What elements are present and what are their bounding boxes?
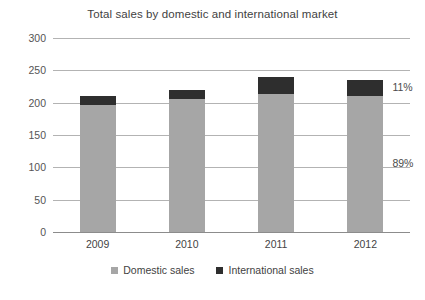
- gridline-0: [53, 232, 410, 233]
- bar-segment-domestic-2010[interactable]: [169, 99, 205, 232]
- chart-legend: Domestic sales International sales: [0, 264, 425, 276]
- x-axis-label-2009: 2009: [58, 238, 138, 250]
- x-axis-label-2012: 2012: [325, 238, 405, 250]
- legend-item-domestic-sales[interactable]: Domestic sales: [111, 264, 194, 276]
- legend-item-international-sales[interactable]: International sales: [216, 264, 313, 276]
- bar-segment-domestic-2009[interactable]: [80, 105, 116, 232]
- gridline-300: [53, 38, 410, 39]
- plot-area: [53, 38, 410, 232]
- y-axis-label-300: 300: [6, 32, 46, 44]
- chart-container: Total sales by domestic and internationa…: [0, 0, 425, 300]
- y-axis-label-50: 50: [6, 194, 46, 206]
- annotation-domestic-percent: 89%: [392, 157, 413, 169]
- x-axis-label-2010: 2010: [147, 238, 227, 250]
- y-axis-label-100: 100: [6, 161, 46, 173]
- bar-segment-international-2010[interactable]: [169, 90, 205, 99]
- y-axis-label-150: 150: [6, 129, 46, 141]
- legend-swatch-icon-domestic: [111, 267, 118, 274]
- y-axis-label-250: 250: [6, 64, 46, 76]
- bar-segment-international-2011[interactable]: [258, 77, 294, 94]
- x-axis-label-2011: 2011: [236, 238, 316, 250]
- legend-swatch-icon-international: [216, 267, 223, 274]
- bar-segment-domestic-2012[interactable]: [347, 96, 383, 232]
- bar-segment-domestic-2011[interactable]: [258, 94, 294, 232]
- bar-segment-international-2009[interactable]: [80, 96, 116, 104]
- legend-label-domestic: Domestic sales: [123, 264, 194, 276]
- chart-title: Total sales by domestic and internationa…: [0, 8, 425, 20]
- legend-label-international: International sales: [228, 264, 313, 276]
- bar-segment-international-2012[interactable]: [347, 80, 383, 96]
- y-axis-label-200: 200: [6, 97, 46, 109]
- y-axis-label-0: 0: [6, 226, 46, 238]
- gridline-250: [53, 70, 410, 71]
- annotation-international-percent: 11%: [392, 81, 412, 93]
